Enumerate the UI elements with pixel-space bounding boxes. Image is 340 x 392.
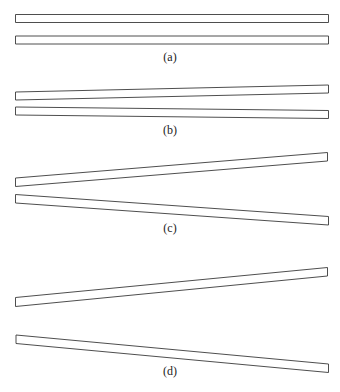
panel-a-label: (a) bbox=[163, 50, 176, 64]
panel-c-top-bar bbox=[16, 153, 328, 187]
panel-d: (d) bbox=[16, 268, 329, 379]
panel-a-bottom-bar bbox=[16, 36, 329, 44]
panel-c-label: (c) bbox=[163, 221, 176, 235]
panel-d-top-bar bbox=[16, 268, 328, 307]
panel-d-label: (d) bbox=[163, 364, 177, 378]
panel-a: (a) bbox=[16, 15, 329, 65]
diagram-canvas: (a) (b) (c) (d) bbox=[0, 0, 340, 392]
panel-b-bottom-bar bbox=[16, 107, 329, 119]
panel-b-top-bar bbox=[16, 85, 329, 100]
panel-a-top-bar bbox=[16, 15, 329, 23]
panel-b: (b) bbox=[16, 85, 329, 137]
panel-b-label: (b) bbox=[163, 123, 177, 137]
panel-c: (c) bbox=[16, 153, 329, 236]
